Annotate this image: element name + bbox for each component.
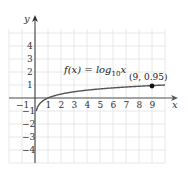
svg-text:9: 9	[150, 100, 156, 110]
x-axis-label: x	[172, 99, 178, 110]
svg-text:−2: −2	[22, 119, 35, 129]
svg-text:4: 4	[85, 100, 91, 110]
svg-text:6: 6	[111, 100, 117, 110]
function-label: f(x) = log10x	[63, 64, 126, 78]
svg-text:3: 3	[27, 54, 33, 64]
svg-text:2: 2	[59, 100, 65, 110]
point-label: (9, 0.95)	[129, 72, 168, 82]
svg-text:8: 8	[137, 100, 143, 110]
svg-text:1: 1	[46, 100, 52, 110]
svg-text:7: 7	[124, 100, 130, 110]
svg-text:3: 3	[72, 100, 78, 110]
svg-text:2: 2	[27, 67, 33, 77]
svg-text:−3: −3	[22, 132, 36, 142]
svg-text:5: 5	[98, 100, 104, 110]
svg-text:4: 4	[27, 41, 33, 51]
svg-text:−1: −1	[22, 106, 35, 116]
point-marker	[150, 84, 155, 89]
y-axis-label: y	[23, 13, 30, 24]
svg-text:−4: −4	[22, 145, 36, 155]
svg-text:1: 1	[27, 80, 33, 90]
log-graph: y x −1123456789 4321−1−2−3−4 f(x) = log1…	[0, 0, 188, 176]
